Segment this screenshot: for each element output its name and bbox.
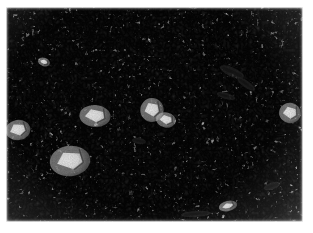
micrograph-figure xyxy=(0,0,313,233)
micrograph-grain xyxy=(6,7,303,222)
micrograph-image xyxy=(6,7,303,222)
micrograph-plate xyxy=(6,7,303,222)
